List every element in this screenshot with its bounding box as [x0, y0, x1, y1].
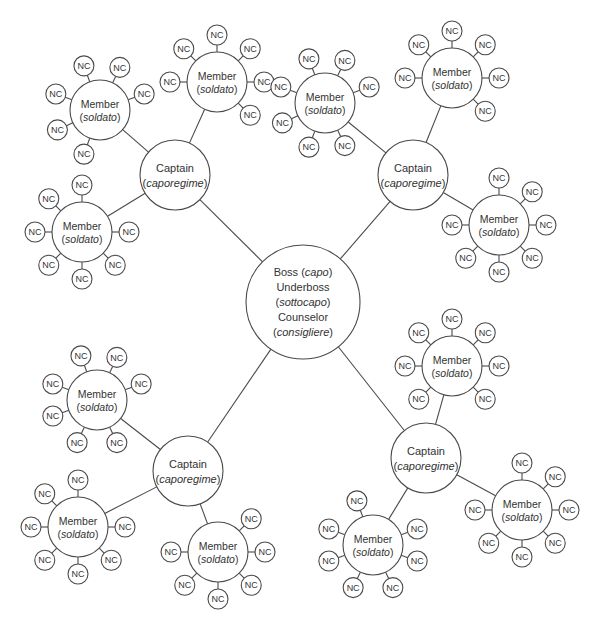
nc-node: NC [43, 374, 63, 394]
label-text: ) [516, 226, 520, 238]
nc-label: NC [71, 438, 84, 448]
edge-member-nc [291, 116, 297, 119]
nc-node: NC [319, 551, 339, 571]
nc-node: NC [105, 255, 125, 275]
nc-node: NC [174, 39, 194, 59]
captain-node-bottom-right: Captain(caporegime) [391, 423, 461, 493]
node-label-line: Member [433, 354, 472, 366]
edge-captain-member [436, 395, 444, 424]
label-italic-text: soldato [505, 511, 539, 523]
nc-label: NC [178, 580, 191, 590]
nc-node: NC [559, 500, 579, 520]
edge-member-nc [543, 484, 548, 489]
nc-label: NC [549, 472, 562, 482]
label-italic-text: caporegime [159, 473, 216, 485]
edge-member-nc [386, 572, 389, 578]
member-circle [422, 336, 482, 396]
edge-captain-member [389, 488, 408, 519]
label-text: ) [342, 104, 346, 116]
nc-node: NC [442, 309, 462, 329]
nc-label: NC [526, 187, 539, 197]
nc-label: NC [77, 61, 90, 71]
edge-member-nc [52, 501, 57, 506]
nc-label: NC [493, 73, 506, 83]
nc-node: NC [107, 433, 127, 453]
nc-label: NC [72, 569, 85, 579]
edge-member-nc [426, 52, 431, 57]
nc-node: NC [119, 222, 139, 242]
nc-label: NC [123, 227, 136, 237]
edge-member-nc [338, 532, 345, 534]
nc-label: NC [526, 253, 539, 263]
nc-label: NC [516, 552, 529, 562]
edge-captain-member [200, 504, 207, 524]
edge-member-nc [125, 387, 132, 389]
nc-node: NC [161, 542, 181, 562]
nc-node: NC [255, 542, 275, 562]
nc-label: NC [516, 458, 529, 468]
label-text: Member [306, 91, 345, 103]
nc-node: NC [47, 120, 67, 140]
nc-node: NC [442, 21, 462, 41]
member-circle [187, 52, 247, 112]
label-text: Member [199, 540, 238, 552]
edge-member-nc [338, 130, 341, 136]
nc-node: NC [240, 105, 260, 125]
nc-label: NC [276, 118, 289, 128]
nc-node: NC [522, 182, 542, 202]
nc-label: NC [46, 379, 59, 389]
label-italic-text: soldato [65, 233, 99, 245]
nc-node: NC [272, 113, 292, 133]
label-text: Member [59, 515, 98, 527]
label-text: Member [198, 70, 237, 82]
edge-boss-captain [338, 347, 404, 431]
nc-label: NC [211, 30, 224, 40]
captain-circle [391, 423, 461, 493]
edge-member-nc [191, 56, 196, 61]
member-node: Member(soldato) [422, 336, 482, 396]
node-label-line: (soldato) [198, 553, 239, 565]
nc-node: NC [72, 269, 92, 289]
edge-member-nc [238, 103, 243, 108]
nc-label: NC [38, 555, 51, 565]
nc-label: NC [138, 89, 151, 99]
edge-captain-member [189, 109, 204, 143]
node-label-line: (caporegime) [381, 177, 446, 189]
nc-node: NC [395, 356, 415, 376]
node-label-line: (soldato) [80, 111, 121, 123]
node-label-line: Member [59, 515, 98, 527]
nc-label: NC [42, 260, 55, 270]
label-italic-text: sottocapo [279, 296, 327, 308]
edge-member-nc [65, 97, 72, 99]
member-node: Member(soldato) [70, 80, 130, 140]
label-italic-text: soldato [61, 528, 95, 540]
nc-label: NC [46, 411, 59, 421]
edge-member-nc [360, 510, 362, 517]
edge-member-nc [87, 75, 89, 82]
nc-node: NC [475, 101, 495, 121]
nc-label: NC [49, 89, 62, 99]
edge-member-nc [62, 410, 69, 412]
nc-label: NC [109, 260, 122, 270]
label-text: Member [503, 498, 542, 510]
nc-node: NC [35, 550, 55, 570]
nc-node: NC [241, 509, 261, 529]
member-node: Member(soldato) [52, 202, 112, 262]
edge-member-nc [56, 253, 61, 258]
edge-member-nc [353, 90, 360, 92]
member-circle [422, 48, 482, 108]
edge-member-nc [239, 573, 244, 578]
edge-captain-member [108, 193, 146, 216]
nc-label: NC [399, 361, 412, 371]
nc-node: NC [25, 222, 45, 242]
label-text: ) [539, 511, 543, 523]
captain-node-top-right: Captain(caporegime) [378, 140, 448, 210]
label-text: Member [433, 66, 472, 78]
node-label-line: Member [63, 220, 102, 232]
label-text: Boss ( [274, 266, 306, 278]
edge-member-nc [338, 555, 345, 557]
edge-member-nc [81, 427, 84, 433]
edge-captain-member [426, 106, 441, 143]
edge-member-nc [56, 206, 61, 211]
nc-label: NC [411, 556, 424, 566]
